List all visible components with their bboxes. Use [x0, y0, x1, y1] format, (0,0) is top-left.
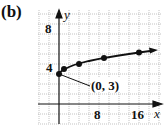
curve-arrow-icon: [149, 48, 158, 54]
y-tick-4: 4: [46, 60, 53, 75]
x-tick-16: 16: [131, 107, 145, 122]
x-axis-label: x: [153, 106, 160, 121]
point-1-4: [61, 66, 67, 72]
point-16-7: [136, 50, 142, 56]
y-axis-label: y: [62, 7, 70, 22]
y-tick-8: 8: [45, 21, 52, 36]
point-annotation: (0, 3): [91, 78, 119, 93]
point-4-5: [76, 61, 82, 67]
curve: [59, 48, 158, 75]
y-axis-arrow-icon: [56, 10, 62, 18]
point-9-6: [101, 55, 107, 61]
graph: y x 8 4 8 16 (0, 3): [0, 0, 164, 136]
x-tick-8: 8: [94, 107, 101, 122]
